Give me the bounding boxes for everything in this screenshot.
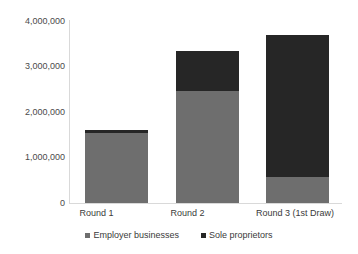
- x-axis-line: [69, 203, 342, 204]
- legend-item-sole-proprietors[interactable]: Sole proprietors: [201, 230, 273, 240]
- bar-segment-sole-proprietors: [176, 51, 239, 91]
- bar-segment-employer-businesses: [176, 91, 239, 203]
- legend-label-employer-businesses: Employer businesses: [93, 230, 179, 240]
- legend-swatch-icon-employer-businesses: [85, 233, 90, 238]
- legend-label-sole-proprietors: Sole proprietors: [209, 230, 273, 240]
- x-category-label-round-2: Round 2: [146, 208, 229, 219]
- bar-segment-employer-businesses: [85, 133, 148, 203]
- x-category-label-round-3: Round 3 (1st Draw): [240, 208, 350, 219]
- chart-legend: Employer businesses Sole proprietors: [0, 230, 358, 240]
- stacked-bar-chart: 4,000,000 3,000,000 2,000,000 1,000,000 …: [0, 0, 358, 254]
- y-tick-label-4000000: 4,000,000: [25, 17, 65, 26]
- bar-segment-employer-businesses: [266, 177, 329, 203]
- bar-segment-sole-proprietors: [266, 35, 329, 177]
- y-tick-label-1000000: 1,000,000: [25, 153, 65, 162]
- legend-swatch-icon-sole-proprietors: [201, 233, 206, 238]
- bar-segment-sole-proprietors: [85, 130, 148, 133]
- y-tick-label-3000000: 3,000,000: [25, 62, 65, 71]
- y-tick-label-2000000: 2,000,000: [25, 108, 65, 117]
- y-tick-label-0: 0: [60, 199, 65, 208]
- x-category-label-round-1: Round 1: [55, 208, 138, 219]
- legend-item-employer-businesses[interactable]: Employer businesses: [85, 230, 179, 240]
- bar-round-1[interactable]: [85, 130, 148, 203]
- bar-round-3-1st-draw[interactable]: [266, 35, 329, 203]
- plot-area: [70, 21, 342, 203]
- bar-round-2[interactable]: [176, 51, 239, 203]
